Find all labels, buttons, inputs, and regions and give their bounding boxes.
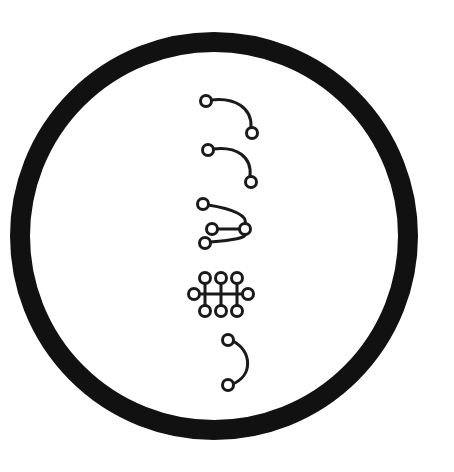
grid-lattice-node-7 <box>216 306 227 317</box>
hook-arc-lower <box>203 145 257 188</box>
hook-arc-lower-node-1 <box>203 145 214 156</box>
hook-arc-upper <box>201 96 258 139</box>
grid-lattice-node-6 <box>200 306 211 317</box>
grid-lattice-node-5 <box>243 289 254 300</box>
trident-fan-node-4 <box>240 224 251 235</box>
c-arc-node-2 <box>223 380 234 391</box>
c-arc <box>223 335 248 391</box>
trident-fan-node-1 <box>198 199 209 210</box>
diagram-canvas <box>0 0 454 472</box>
grid-lattice-node-2 <box>216 273 227 284</box>
grid-lattice-node-1 <box>200 273 211 284</box>
hook-arc-upper-node-2 <box>247 128 258 139</box>
grid-lattice-node-3 <box>232 273 243 284</box>
grid-lattice-node-4 <box>189 289 200 300</box>
hook-arc-upper-node-1 <box>201 96 212 107</box>
trident-fan <box>198 199 251 249</box>
hook-arc-upper-edge-1 <box>211 100 251 127</box>
c-arc-node-1 <box>223 335 234 346</box>
node-link-figures <box>189 96 258 391</box>
c-arc-edge-1 <box>233 341 248 384</box>
diagram-svg <box>0 0 454 472</box>
hook-arc-lower-edge-1 <box>213 149 250 176</box>
trident-fan-edge-1 <box>208 205 245 224</box>
trident-fan-node-3 <box>200 238 211 249</box>
grid-lattice-node-8 <box>232 306 243 317</box>
hook-arc-lower-node-2 <box>246 177 257 188</box>
trident-fan-edge-3 <box>210 234 245 242</box>
grid-lattice <box>189 273 254 317</box>
trident-fan-node-2 <box>207 224 218 235</box>
